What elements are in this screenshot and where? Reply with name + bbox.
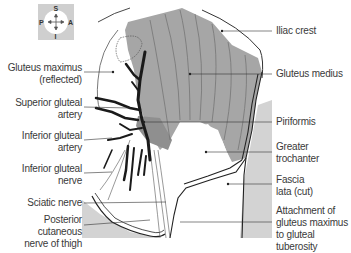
label-line: Fascia bbox=[276, 174, 313, 186]
label-line: to gluteal tuberosity bbox=[276, 229, 351, 253]
label-line: (reflected) bbox=[8, 74, 82, 86]
compass-superior: S bbox=[54, 5, 59, 12]
compass-anterior: A bbox=[68, 19, 73, 26]
label-inferior-gluteal-artery: Inferior gluteal artery bbox=[22, 130, 82, 154]
label-line: nerve of thigh bbox=[0, 238, 82, 250]
label-line: Inferior gluteal bbox=[22, 130, 82, 142]
label-posterior-cutaneous-nerve: Posterior cutaneous nerve of thigh bbox=[0, 214, 82, 250]
label-gluteus-maximus: Gluteus maximus (reflected) bbox=[8, 62, 82, 86]
label-iliac-crest: Iliac crest bbox=[276, 25, 316, 37]
label-piriformis: Piriformis bbox=[276, 116, 316, 128]
label-line: artery bbox=[15, 109, 82, 121]
label-line: artery bbox=[22, 142, 82, 154]
label-line: Posterior cutaneous bbox=[0, 214, 82, 238]
thigh-region bbox=[82, 200, 160, 238]
label-line: Attachment of bbox=[276, 205, 351, 217]
label-line: gluteus maximus bbox=[276, 217, 351, 229]
label-line: lata (cut) bbox=[276, 186, 313, 198]
label-line: Inferior gluteal bbox=[22, 163, 82, 175]
label-line: trochanter bbox=[276, 153, 319, 165]
label-line: Sciatic nerve bbox=[27, 197, 82, 209]
compass-inferior: I bbox=[55, 33, 57, 40]
label-greater-trochanter: Greater trochanter bbox=[276, 141, 319, 165]
label-attachment-gluteus-maximus: Attachment of gluteus maximus to gluteal… bbox=[276, 205, 351, 253]
label-sciatic-nerve: Sciatic nerve bbox=[27, 197, 82, 209]
label-inferior-gluteal-nerve: Inferior gluteal nerve bbox=[22, 163, 82, 187]
label-fascia-lata: Fascia lata (cut) bbox=[276, 174, 313, 198]
label-line: Iliac crest bbox=[276, 25, 316, 37]
compass-posterior: P bbox=[39, 19, 44, 26]
label-superior-gluteal-artery: Superior gluteal artery bbox=[15, 97, 82, 121]
label-line: Piriformis bbox=[276, 116, 316, 128]
label-gluteus-medius: Gluteus medius bbox=[276, 68, 343, 80]
label-line: Gluteus maximus bbox=[8, 62, 82, 74]
label-line: Greater bbox=[276, 141, 319, 153]
orientation-compass-icon: S I P A bbox=[38, 4, 74, 40]
label-line: nerve bbox=[22, 175, 82, 187]
label-line: Superior gluteal bbox=[15, 97, 82, 109]
label-line: Gluteus medius bbox=[276, 68, 343, 80]
